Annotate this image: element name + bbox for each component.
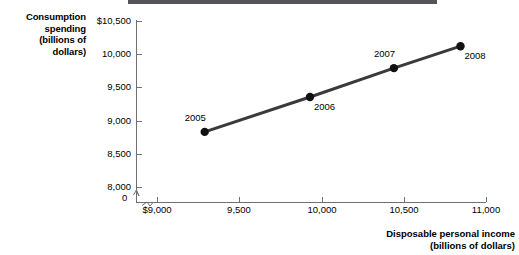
data-point-label: 2005 <box>185 112 206 123</box>
data-point-label: 2008 <box>465 50 486 61</box>
data-point-label: 2007 <box>374 48 395 59</box>
data-point-marker <box>201 128 209 136</box>
consumption-function-line <box>205 46 461 132</box>
chart-figure: Consumption spending (billions of dollar… <box>0 0 519 255</box>
plot-area <box>0 0 519 255</box>
data-point-marker <box>456 42 464 50</box>
data-point-marker <box>306 93 314 101</box>
data-point-label: 2006 <box>314 101 335 112</box>
data-point-marker <box>390 64 398 72</box>
